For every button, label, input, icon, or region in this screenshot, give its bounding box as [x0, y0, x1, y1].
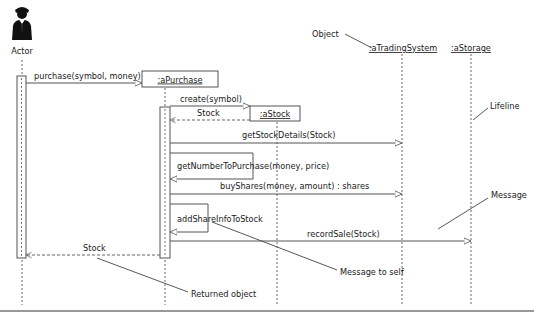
message-create-label: create(symbol)	[180, 94, 242, 104]
annotation-returned-object-leader	[97, 258, 188, 292]
message-recordsale-label: recordSale(Stock)	[307, 229, 380, 239]
annotation-object: Object	[312, 29, 339, 39]
sequence-diagram: Actor :aPurchase :aStock :aTradingSystem…	[0, 0, 534, 322]
message-stock-return-label: Stock	[197, 108, 220, 118]
actor-label: Actor	[11, 46, 33, 56]
annotation-message-to-self: Message to self	[340, 267, 405, 277]
actor-icon	[12, 7, 32, 40]
annotation-returned-object: Returned object	[191, 289, 257, 299]
annotation-message-leader	[438, 198, 488, 229]
annotation-message: Message	[491, 190, 527, 200]
object-label-atradingsystem: :aTradingSystem	[369, 43, 437, 53]
annotation-lifeline-leader	[473, 108, 488, 120]
message-addshareinfotostock-label: addShareInfoToStock	[177, 214, 263, 224]
annotation-object-leader	[345, 34, 372, 48]
object-label-astorage: :aStorage	[451, 43, 491, 53]
message-buyshares-label: buyShares(money, amount) : shares	[220, 181, 369, 191]
message-getstockdetails-label: getStockDetails(Stock)	[242, 130, 336, 140]
object-label-astock: :aStock	[260, 109, 291, 119]
message-getnumbertopurchase-label: getNumberToPurchase(money, price)	[177, 161, 329, 171]
annotation-lifeline: Lifeline	[490, 101, 520, 111]
message-stock-final-return-label: Stock	[83, 243, 106, 253]
message-purchase-label: purchase(symbol, money)	[34, 71, 141, 81]
object-label-apurchase: :aPurchase	[158, 75, 203, 85]
